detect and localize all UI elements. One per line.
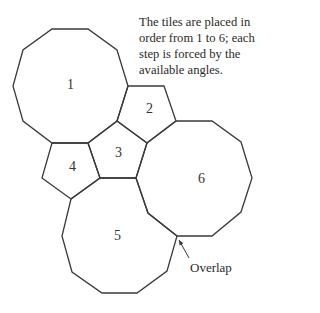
caption-line-3: step is forced by the (139, 46, 272, 62)
caption-line-1: The tiles are placed in (139, 14, 272, 30)
overlap-label: Overlap (190, 260, 232, 276)
tile-label-6: 6 (198, 171, 205, 187)
caption-line-4: available angles. (139, 62, 272, 78)
tile-label-1: 1 (67, 77, 74, 93)
tile-label-3: 3 (115, 145, 122, 161)
tile-label-2: 2 (146, 101, 153, 117)
tile-label-5: 5 (114, 228, 121, 244)
caption: The tiles are placed in order from 1 to … (139, 14, 272, 78)
tile-label-4: 4 (69, 159, 76, 175)
tile-6-decagon (136, 121, 252, 236)
overlap-arrow (179, 240, 189, 258)
caption-line-2: order from 1 to 6; each (139, 30, 272, 46)
